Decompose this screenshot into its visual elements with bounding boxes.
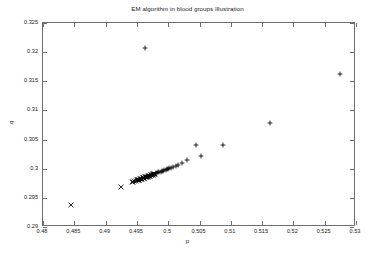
data-point-cross <box>142 174 149 181</box>
data-point-cross <box>135 176 142 183</box>
x-axis-tick <box>231 23 232 27</box>
data-point-cross <box>151 171 158 178</box>
data-point-plus <box>172 163 179 170</box>
data-point-plus <box>220 141 227 148</box>
data-point-plus <box>156 169 163 176</box>
data-point-cross <box>130 178 137 185</box>
x-axis-tick <box>168 23 169 27</box>
x-axis-tick <box>293 221 294 225</box>
y-axis-tick <box>350 169 354 170</box>
data-point-cross <box>68 202 75 209</box>
x-axis-tick <box>200 221 201 225</box>
data-point-cross <box>146 172 153 179</box>
data-point-cross <box>128 179 135 186</box>
y-axis-tick <box>43 81 47 82</box>
figure-canvas: EM algorithm in blood groups Illustratio… <box>0 0 375 255</box>
y-axis-tick <box>43 140 47 141</box>
x-axis-tick <box>325 23 326 27</box>
data-point-plus <box>267 119 274 126</box>
data-point-cross <box>148 172 155 179</box>
data-point-cross <box>133 177 140 184</box>
y-axis-tick <box>43 23 47 24</box>
data-point-cross <box>144 173 151 180</box>
y-axis-tick <box>43 169 47 170</box>
x-axis-tick-label: 0.525 <box>317 228 331 234</box>
x-axis-tick-label: 0.49 <box>99 228 110 234</box>
data-point-plus <box>161 167 168 174</box>
y-axis-tick <box>350 52 354 53</box>
data-point-cross <box>150 171 157 178</box>
data-point-cross <box>132 178 139 185</box>
data-point-cross <box>152 170 159 177</box>
x-axis-tick <box>74 23 75 27</box>
data-point-plus <box>141 45 148 52</box>
y-axis-tick <box>43 52 47 53</box>
data-point-cross <box>141 174 148 181</box>
data-point-cross <box>149 171 156 178</box>
y-axis-tick <box>350 23 354 24</box>
x-axis-tick <box>231 221 232 225</box>
y-axis-tick-label: 0.32 <box>27 48 38 54</box>
data-point-plus <box>170 164 177 171</box>
data-point-cross <box>137 176 144 183</box>
x-axis-tick <box>168 221 169 225</box>
y-axis-tick <box>350 110 354 111</box>
y-axis-tick <box>350 198 354 199</box>
x-axis-tick-label: 0.53 <box>350 228 361 234</box>
data-point-plus <box>179 160 186 167</box>
y-axis-tick-label: 0.315 <box>24 77 38 83</box>
x-axis-title: p <box>0 238 375 244</box>
data-point-cross <box>149 171 156 178</box>
x-axis-tick <box>106 23 107 27</box>
chart-title: EM algorithm in blood groups Illustratio… <box>0 5 375 12</box>
y-axis-tick-label: 0.29 <box>27 223 38 229</box>
data-point-plus <box>164 166 171 173</box>
data-point-plus <box>175 162 182 169</box>
x-axis-tick <box>325 221 326 225</box>
data-point-plus <box>166 165 173 172</box>
data-point-cross <box>118 184 125 191</box>
data-point-cross <box>139 175 146 182</box>
x-axis-tick <box>200 23 201 27</box>
data-point-cross <box>140 175 147 182</box>
data-point-cross <box>144 173 151 180</box>
data-point-cross <box>131 178 138 185</box>
data-point-cross <box>137 176 144 183</box>
data-point-plus <box>152 170 159 177</box>
data-point-plus <box>337 71 344 78</box>
data-point-cross <box>140 174 147 181</box>
y-axis-tick <box>350 81 354 82</box>
y-axis-tick-label: 0.31 <box>27 106 38 112</box>
y-axis-tick-label: 0.3 <box>30 165 38 171</box>
data-point-plus <box>184 157 191 164</box>
data-point-cross <box>135 177 142 184</box>
y-axis-tick-label: 0.325 <box>24 19 38 25</box>
x-axis-tick-label: 0.5 <box>163 228 171 234</box>
data-point-plus <box>154 170 161 177</box>
x-axis-tick <box>262 221 263 225</box>
data-point-cross <box>143 174 150 181</box>
x-axis-tick-label: 0.51 <box>224 228 235 234</box>
data-point-cross <box>145 173 152 180</box>
data-point-plus <box>155 169 162 176</box>
plot-area[interactable] <box>42 22 355 226</box>
y-axis-tick-label: 0.305 <box>24 136 38 142</box>
data-point-cross <box>142 174 149 181</box>
data-point-cross <box>145 173 152 180</box>
data-point-cross <box>134 177 141 184</box>
x-axis-tick <box>356 23 357 27</box>
y-axis-tick <box>43 110 47 111</box>
data-point-plus <box>159 168 166 175</box>
data-point-plus <box>197 153 204 160</box>
x-axis-tick-label: 0.485 <box>66 228 80 234</box>
x-axis-tick-label: 0.48 <box>37 228 48 234</box>
x-axis-tick <box>43 221 44 225</box>
x-axis-tick <box>137 221 138 225</box>
x-axis-tick <box>74 221 75 225</box>
x-axis-tick <box>137 23 138 27</box>
data-point-plus <box>162 166 169 173</box>
data-point-cross <box>136 176 143 183</box>
y-axis-tick <box>350 140 354 141</box>
data-point-cross <box>147 172 154 179</box>
x-axis-tick-label: 0.505 <box>192 228 206 234</box>
